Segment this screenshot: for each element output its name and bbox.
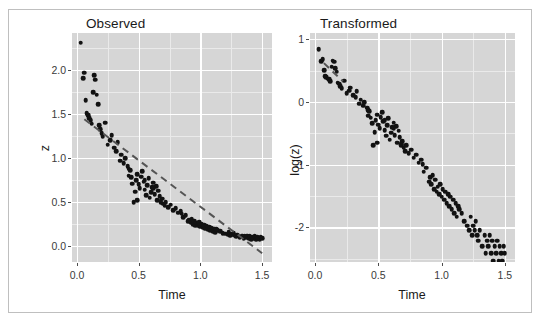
data-point bbox=[494, 251, 499, 256]
x-tick-label: 0.5 bbox=[131, 269, 146, 281]
y-tick-mark bbox=[306, 102, 309, 103]
y-tick-mark bbox=[68, 70, 71, 71]
x-tick-label: 0.0 bbox=[308, 269, 323, 281]
data-point bbox=[180, 211, 185, 216]
x-tick-mark bbox=[139, 263, 140, 266]
data-point bbox=[503, 251, 508, 256]
data-point bbox=[366, 114, 371, 119]
y-axis-title-observed: z bbox=[38, 145, 52, 151]
gridline-major-vertical bbox=[77, 33, 78, 262]
data-point bbox=[128, 168, 133, 173]
gridline-major-vertical bbox=[139, 33, 140, 262]
plot-panel-observed bbox=[72, 33, 272, 262]
y-tick-mark bbox=[68, 158, 71, 159]
data-point bbox=[334, 70, 339, 75]
data-point bbox=[424, 166, 429, 171]
data-point bbox=[260, 236, 265, 241]
data-point bbox=[392, 133, 397, 138]
data-point bbox=[145, 183, 150, 188]
data-point bbox=[375, 140, 380, 145]
gridline-minor-horizontal bbox=[310, 196, 515, 197]
gridline-major-horizontal bbox=[72, 114, 272, 115]
data-point bbox=[135, 198, 140, 203]
gridline-major-horizontal bbox=[72, 70, 272, 71]
y-tick-mark bbox=[306, 165, 309, 166]
data-point bbox=[109, 133, 114, 138]
data-point bbox=[429, 182, 434, 187]
y-tick-mark bbox=[68, 246, 71, 247]
gridline-major-horizontal bbox=[72, 158, 272, 159]
data-point bbox=[485, 238, 490, 243]
data-point bbox=[355, 89, 360, 94]
data-point bbox=[94, 92, 99, 97]
data-point bbox=[482, 233, 487, 238]
data-point bbox=[106, 143, 111, 148]
data-point bbox=[101, 134, 106, 139]
gridline-major-horizontal bbox=[72, 246, 272, 247]
data-point bbox=[348, 85, 353, 90]
data-point bbox=[468, 215, 473, 220]
data-point bbox=[339, 86, 344, 91]
x-tick-label: 1.5 bbox=[498, 269, 513, 281]
data-point bbox=[484, 251, 489, 256]
data-point bbox=[420, 162, 425, 167]
data-point bbox=[156, 188, 161, 193]
y-tick-label: 0 bbox=[280, 96, 304, 108]
panel-title-transformed: Transformed bbox=[320, 16, 397, 31]
y-tick-mark bbox=[68, 114, 71, 115]
data-point bbox=[470, 233, 475, 238]
x-tick-mark bbox=[378, 263, 379, 266]
data-point bbox=[342, 78, 347, 83]
data-point bbox=[501, 244, 506, 249]
gridline-minor-vertical bbox=[108, 33, 109, 262]
gridline-minor-horizontal bbox=[72, 180, 272, 181]
data-point bbox=[391, 126, 396, 131]
data-point bbox=[328, 79, 333, 84]
data-point bbox=[320, 57, 325, 62]
data-point bbox=[83, 98, 88, 103]
data-point bbox=[115, 140, 120, 145]
x-tick-label: 0.5 bbox=[371, 269, 386, 281]
gridline-minor-horizontal bbox=[310, 133, 515, 134]
x-tick-label: 1.0 bbox=[434, 269, 449, 281]
gridline-minor-vertical bbox=[170, 33, 171, 262]
x-tick-mark bbox=[315, 263, 316, 266]
data-point bbox=[159, 199, 164, 204]
data-point bbox=[382, 128, 387, 133]
data-point bbox=[492, 244, 497, 249]
data-point bbox=[480, 244, 485, 249]
y-tick-label: 1.0 bbox=[42, 152, 66, 164]
data-point bbox=[372, 130, 377, 135]
x-tick-mark bbox=[442, 263, 443, 266]
data-point bbox=[140, 169, 145, 174]
data-point bbox=[433, 178, 438, 183]
data-point bbox=[147, 195, 152, 200]
gridline-major-horizontal bbox=[310, 102, 515, 103]
data-point bbox=[489, 251, 494, 256]
data-point bbox=[456, 204, 461, 209]
y-tick-label: 1 bbox=[280, 33, 304, 45]
y-tick-mark bbox=[68, 202, 71, 203]
gridline-major-horizontal bbox=[310, 165, 515, 166]
data-point bbox=[168, 202, 173, 207]
x-tick-mark bbox=[505, 263, 506, 266]
x-tick-mark bbox=[77, 263, 78, 266]
data-point bbox=[78, 40, 83, 45]
gridline-major-vertical bbox=[262, 33, 263, 262]
data-point bbox=[476, 238, 481, 243]
gridline-minor-horizontal bbox=[72, 224, 272, 225]
x-tick-label: 1.0 bbox=[193, 269, 208, 281]
x-tick-mark bbox=[200, 263, 201, 266]
data-point bbox=[387, 137, 392, 142]
data-point bbox=[143, 178, 148, 183]
x-tick-mark bbox=[262, 263, 263, 266]
data-point bbox=[143, 187, 148, 192]
data-point bbox=[475, 233, 480, 238]
data-point bbox=[495, 238, 500, 243]
gridline-major-horizontal bbox=[310, 227, 515, 228]
y-tick-label: 1.5 bbox=[42, 108, 66, 120]
y-tick-label: 0.5 bbox=[42, 196, 66, 208]
data-point bbox=[490, 238, 495, 243]
plot-panel-transformed bbox=[310, 33, 515, 262]
data-point bbox=[362, 100, 367, 105]
